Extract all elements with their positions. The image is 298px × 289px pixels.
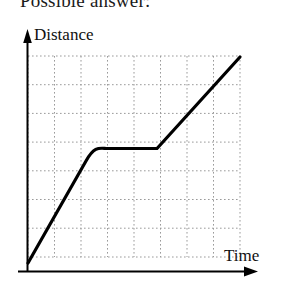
y-axis-label: Distance [34,26,93,43]
y-axis-arrow-icon [23,29,32,43]
grid-vertical-lines [28,56,240,257]
x-axis-label: Time [224,247,259,264]
figure-page: Possible answer: [0,0,298,289]
x-axis-arrow-icon [244,267,258,277]
distance-time-graph: Distance Time [0,0,298,289]
